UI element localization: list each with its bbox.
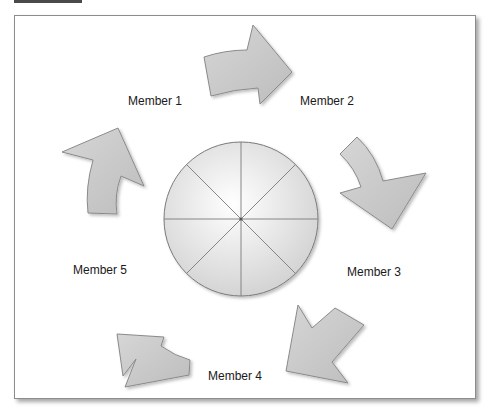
cycle-diagram	[0, 0, 493, 412]
center-wheel	[164, 142, 318, 296]
arrow-member5-to-member1	[62, 128, 144, 214]
arrow-member3-to-member4	[286, 305, 364, 383]
arrow-member1-to-member2	[204, 25, 292, 104]
member-5-label: Member 5	[73, 263, 127, 277]
arrow-member2-to-member3	[340, 137, 426, 229]
member-2-label: Member 2	[300, 94, 354, 108]
member-3-label: Member 3	[347, 265, 401, 279]
arrow-member4-to-member5	[117, 334, 190, 387]
member-4-label: Member 4	[208, 369, 262, 383]
member-1-label: Member 1	[128, 94, 182, 108]
